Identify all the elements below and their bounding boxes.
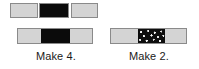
bar-model-left [17,28,93,44]
bar-segment-light-right [70,29,92,43]
bar-segment-dark [41,29,70,43]
unit-block-light-1 [10,3,38,18]
worksheet-figure: Make 4. Make 2. [0,0,199,69]
caption-left: Make 4. [36,50,76,63]
bar-model-right [110,28,187,44]
bar-segment-light-left [111,29,138,43]
bar-segment-speckled [138,29,165,43]
unit-block-dark [39,3,69,18]
unit-block-light-2 [71,3,98,18]
bar-segment-light-right [165,29,186,43]
bar-segment-light-left [18,29,41,43]
caption-right: Make 2. [129,50,169,63]
